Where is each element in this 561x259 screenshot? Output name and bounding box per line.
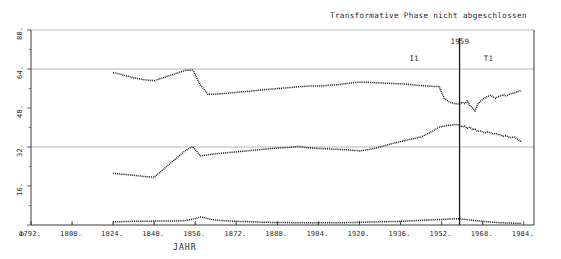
x-tick-label-1856: 1856. [183,231,205,238]
x-tick-label-1904: 1904. [306,231,328,238]
chart-figure: Transformative Phase nicht abgeschlossen… [0,0,561,259]
y-tick-label-48: 48. [17,105,24,118]
phase-label-t1: T1 [484,55,493,62]
y-tick-label-16: 16. [17,183,24,196]
x-tick-label-1824: 1824. [101,231,123,238]
x-tick-label-1984: 1984. [512,231,534,238]
y-tick-label-32: 32. [17,144,24,157]
vertical-marker-label-1959: 1959 [451,38,470,45]
x-tick-label-1808: 1808. [60,231,82,238]
y-tick-label-80: 80. [17,27,24,40]
y-tick-label-64: 64. [17,66,24,79]
x-tick-label-1920: 1920. [347,231,369,238]
chart-plot-area [0,0,561,259]
x-tick-label-1936: 1936. [389,231,411,238]
phase-label-i1: I1 [409,55,418,62]
x-axis-title: JAHR [173,243,197,251]
x-tick-label-1872: 1872. [224,231,246,238]
x-tick-label-1952: 1952. [430,231,452,238]
x-tick-label-1888: 1888. [265,231,287,238]
chart-top-annotation: Transformative Phase nicht abgeschlossen [330,12,527,20]
y-tick-label-0: 0 [19,232,26,236]
x-tick-label-1840: 1840. [142,231,164,238]
x-tick-label-1968: 1968. [471,231,493,238]
